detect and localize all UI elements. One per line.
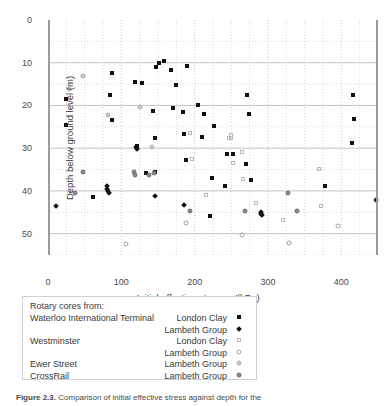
legend-unit-label: Lambeth Group [133,371,227,381]
legend-site-label: Westminster [30,336,80,346]
legend-site-label: Ewer Street [30,359,77,369]
data-point [184,158,188,162]
x-tick-label: 200 [187,278,202,287]
data-point [147,173,152,178]
data-point [152,170,157,175]
data-point [91,195,95,199]
x-tick-label: 400 [334,278,349,287]
data-point [106,191,112,197]
data-point [336,224,341,229]
data-point [225,152,229,156]
data-point [351,93,355,97]
data-point [153,136,157,140]
data-point [210,176,214,180]
y-axis-line [48,20,50,255]
data-point [190,157,194,161]
legend-unit-label: Lambeth Group [133,348,227,358]
data-point [258,211,264,217]
data-point [133,144,139,150]
data-point [182,132,186,136]
legend-row: Ewer StreetLambeth Group [23,359,258,371]
data-point [350,141,354,145]
data-point [202,112,206,116]
legend-marker-sq-filled [237,315,241,319]
data-point [240,150,244,154]
data-point [247,112,251,116]
data-point [110,71,114,75]
plot-frame: 01020304050 0100200300400 Depth below gr… [48,20,378,255]
data-point [185,64,189,68]
legend-site-label: CrossRail [30,371,69,381]
x-tick-label: 100 [114,278,129,287]
data-point [135,146,139,150]
data-point [229,136,233,140]
data-point [181,110,185,114]
y-tick-label: 20 [22,101,32,110]
data-point [140,81,144,85]
data-point [231,152,235,156]
data-point [319,204,323,208]
legend-marker-cir-grey [237,361,242,366]
data-point [152,193,158,199]
legend-unit-label: London Clay [133,336,227,346]
legend-row: Lambeth Group [23,325,258,337]
legend-marker-cir-dark [237,372,242,377]
data-point [259,209,265,215]
right-axis-line [376,20,378,255]
data-point [132,172,137,177]
data-point [249,178,253,182]
legend-row: Waterloo International TerminalLondon Cl… [23,313,258,325]
data-point [151,109,155,113]
data-point [204,193,208,197]
data-point [153,170,157,174]
data-point [105,186,111,192]
data-point [244,162,248,166]
data-point [174,83,178,87]
data-point [154,65,158,69]
data-point [196,103,200,107]
data-point [183,220,188,225]
data-point [212,124,216,128]
y-axis-title: Depth below ground level (m) [64,43,75,233]
data-point [104,183,110,189]
data-point [259,212,265,218]
data-point [187,209,192,214]
data-point [81,74,86,79]
data-point [137,104,142,109]
legend-unit-label: Lambeth Group [133,325,227,335]
data-point [171,106,175,110]
data-point [231,161,235,165]
legend-marker-dia-filled [236,326,242,332]
data-point [169,68,173,72]
legend-marker-sq-open [237,338,241,342]
data-point [295,209,300,214]
data-point [245,93,249,97]
data-point [323,184,327,188]
legend-title: Rotary cores from: [30,301,104,311]
caption-label: Figure 2.3. [16,393,56,402]
data-point [157,61,161,65]
data-point [182,202,188,208]
data-point [81,169,86,174]
x-tick-label: 300 [260,278,275,287]
y-tick-label: 0 [27,16,32,25]
data-point [188,131,192,135]
data-point [135,144,139,148]
data-point [254,201,258,205]
data-point [223,184,227,188]
data-point [227,136,231,140]
data-point [243,208,248,213]
legend-row: Lambeth Group [23,348,258,360]
data-point [53,203,59,209]
legend-marker-cir-open [237,349,242,354]
legend-unit-label: London Clay [133,313,227,323]
data-point [241,177,245,181]
caption-text: Comparison of initial effective stress a… [58,393,261,402]
y-tick-label: 10 [22,58,32,67]
y-tick-label: 50 [22,229,32,238]
legend-unit-label: Lambeth Group [133,359,227,369]
figure-container: 01020304050 0100200300400 Depth below gr… [0,0,391,406]
legend-row: CrossRailLambeth Group [23,371,258,383]
data-point [285,190,290,195]
legend: Rotary cores from: Waterloo Internationa… [22,296,257,380]
